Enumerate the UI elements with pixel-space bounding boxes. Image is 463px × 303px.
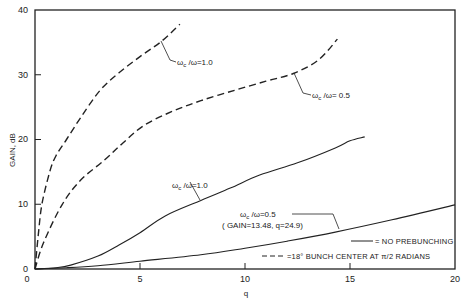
series-line-2: [35, 137, 365, 269]
y-tick-label: 40: [18, 5, 28, 15]
series-line-1: [35, 39, 337, 269]
series-line-0: [35, 24, 180, 269]
y-tick-label: 20: [18, 134, 28, 144]
x-tick-label: 15: [345, 274, 355, 284]
x-tick-label: 10: [240, 274, 250, 284]
y-tick-label: 0: [23, 264, 28, 274]
y-axis-title: GAIN, dB: [8, 133, 17, 167]
annotation-solid-1-0: ωc /ω=1.0: [172, 181, 208, 191]
data-series: [35, 24, 455, 269]
annotation-leader-1: [161, 41, 176, 62]
legend-dashed-label: =18° BUNCH CENTER AT π/2 RADIANS: [287, 252, 430, 261]
annotation-dashed-0-5: ωc /ω= 0.5: [312, 91, 351, 101]
annotation-solid-0-5-note: ( GAIN=13.48, q=24.9): [222, 221, 303, 230]
x-tick-label: 5: [137, 274, 142, 284]
annotation-dashed-1-0: ωc /ω=1.0: [177, 58, 213, 68]
gain-vs-q-chart: 0 10 20 30 40 0 5 10 15 20 q GAIN, dB ωc…: [0, 0, 463, 303]
plot-frame: [35, 10, 455, 269]
x-tick-label: 20: [450, 274, 460, 284]
legend-solid-label: = NO PREBUNCHING: [375, 237, 453, 246]
x-tick-label: 0: [24, 274, 29, 284]
y-tick-label: 10: [18, 199, 28, 209]
y-tick-label: 30: [18, 70, 28, 80]
annotation-solid-0-5: ωc /ω=0.5: [240, 210, 276, 220]
x-axis-title: q: [244, 289, 248, 298]
annotation-leader-2: [294, 73, 311, 95]
